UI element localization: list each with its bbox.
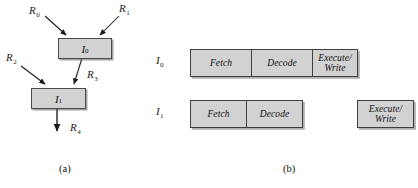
stage-i1-execute-write: Execute/ Write — [357, 100, 414, 128]
caption-b: (b) — [283, 163, 295, 174]
row-label-i0: I0 — [156, 55, 163, 66]
figure-root: I0 I1 R0 R1 R2 R3 R4 (a) I0 Fetch Decode… — [0, 0, 418, 188]
register-r4-base: R — [70, 121, 77, 133]
row-label-i0-sub: 0 — [160, 61, 164, 69]
caption-a: (a) — [59, 163, 71, 174]
register-r0-base: R — [29, 4, 36, 16]
stage-i0-execute-line1: Execute/ — [318, 53, 352, 63]
node-i0-subscript: 0 — [85, 47, 89, 55]
register-r4-sub: 4 — [77, 128, 81, 136]
stage-i0-decode: Decode — [251, 49, 313, 77]
node-i1: I1 — [31, 88, 86, 109]
node-i0: I0 — [58, 38, 112, 59]
edge-i0-to-i1-r3 — [74, 58, 82, 84]
row-label-i1-sub: 1 — [160, 112, 164, 120]
register-r2-sub: 2 — [13, 58, 17, 66]
register-r3-sub: 3 — [94, 75, 98, 83]
stage-i1-execute-line2: Write — [375, 114, 396, 124]
row-label-i1: I1 — [156, 106, 163, 117]
stage-i0-execute-write-label: Execute/ Write — [318, 53, 352, 74]
register-r1-sub: 1 — [126, 9, 130, 17]
stage-i0-fetch-label: Fetch — [210, 58, 232, 69]
stage-i1-fetch-label: Fetch — [207, 109, 229, 120]
edge-r2-to-i1 — [21, 66, 45, 84]
register-label-r3: R3 — [87, 69, 97, 80]
edge-r1-to-i0 — [100, 16, 119, 35]
stage-i1-fetch: Fetch — [190, 100, 247, 128]
stage-i1-decode: Decode — [246, 100, 303, 128]
stage-i0-execute-write: Execute/ Write — [312, 49, 358, 77]
register-r1-base: R — [119, 2, 126, 14]
stage-i0-fetch: Fetch — [190, 49, 252, 77]
node-i1-subscript: 1 — [59, 97, 63, 105]
register-label-r4: R4 — [70, 122, 80, 133]
register-label-r1: R1 — [119, 3, 129, 14]
register-r3-base: R — [87, 68, 94, 80]
register-label-r2: R2 — [6, 52, 16, 63]
stage-i1-execute-write-label: Execute/ Write — [369, 104, 403, 125]
stage-i1-decode-label: Decode — [260, 109, 290, 120]
register-r2-base: R — [6, 51, 13, 63]
edge-r0-to-i0 — [45, 16, 66, 35]
register-label-r0: R0 — [29, 5, 39, 16]
register-r0-sub: 0 — [36, 11, 40, 19]
stage-i1-execute-line1: Execute/ — [369, 104, 403, 114]
stage-i0-execute-line2: Write — [324, 63, 345, 73]
stage-i0-decode-label: Decode — [267, 58, 297, 69]
